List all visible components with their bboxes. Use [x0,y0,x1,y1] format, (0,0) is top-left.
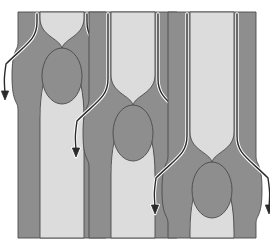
valve-diagram: Valve highValve middleValve low [0,0,270,249]
valve-body [113,105,153,161]
figure-panel: Valve highValve middleValve low Venous v… [0,0,270,249]
valve-body [192,162,232,218]
valve-body [42,48,82,104]
panel-right: Valve low [151,12,270,238]
panels-group: Valve highValve middleValve low [1,12,270,238]
